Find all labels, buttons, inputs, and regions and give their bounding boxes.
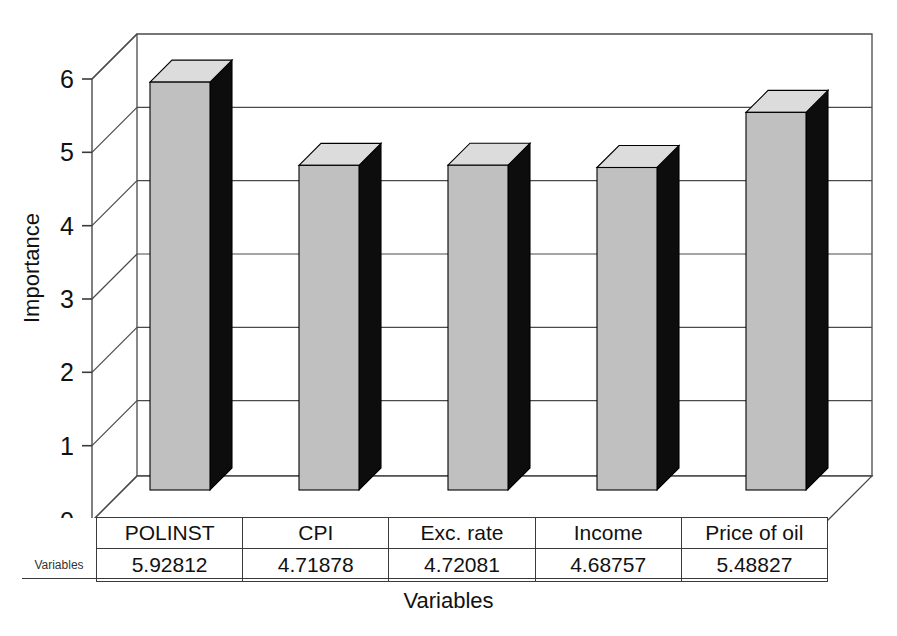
legend-blank-cell [22,518,97,549]
table-header-cpi: CPI [243,518,389,549]
x-axis-title: Variables [0,588,897,614]
table-header-exc-rate: Exc. rate [389,518,535,549]
ytick-label-4: 4 [60,212,74,240]
bar-side-face [508,143,530,490]
ytick-label-1: 1 [60,432,74,460]
table-row-headers: POLINST CPI Exc. rate Income Price of oi… [22,518,828,549]
bar-side-face [806,90,828,490]
gridline-depth-5 [92,107,137,152]
bar-front-face [597,167,657,490]
table-header-price-of-oil: Price of oil [681,518,827,549]
bar-polinst [150,60,232,490]
table-header-polinst: POLINST [97,518,243,549]
table-value-exc-rate: 4.72081 [389,549,535,582]
gridline-depth-1 [92,401,137,446]
bar-front-face [150,82,210,490]
table-row-values: Variables 5.92812 4.71878 4.72081 4.6875… [22,549,828,582]
ytick-label-6: 6 [60,65,74,93]
ytick-label-2: 2 [60,358,74,386]
bar-front-face [746,112,806,490]
bar-cpi [299,143,381,490]
bar-exc-rate [448,143,530,490]
bar-front-face [448,165,508,490]
table-value-cpi: 4.71878 [243,549,389,582]
ytick-label-5: 5 [60,138,74,166]
gridline-depth-2 [92,327,137,372]
gridline-depth-3 [92,254,137,299]
bar-price-of-oil [746,90,828,490]
bar-front-face [299,165,359,490]
table-header-income: Income [535,518,681,549]
y-axis-ticks: 6 5 4 3 2 1 0 [60,65,92,535]
table-value-income: 4.68757 [535,549,681,582]
ytick-label-3: 3 [60,285,74,313]
bar-side-face [657,145,679,490]
data-table: POLINST CPI Exc. rate Income Price of oi… [22,517,828,582]
gridline-depth-6 [92,34,137,79]
gridline-depth-4 [92,181,137,226]
table-bottom-rule [22,578,828,579]
chart-figure: 6 5 4 3 2 1 0 POLINST CPI Exc. rate Inco… [0,0,897,636]
bar-income [597,145,679,490]
table-value-price-of-oil: 5.48827 [681,549,827,582]
table-value-polinst: 5.92812 [97,549,243,582]
series-legend-label: Variables [22,549,97,582]
y-axis-title: Importance [19,178,45,358]
bar-side-face [210,60,232,490]
bar-side-face [359,143,381,490]
